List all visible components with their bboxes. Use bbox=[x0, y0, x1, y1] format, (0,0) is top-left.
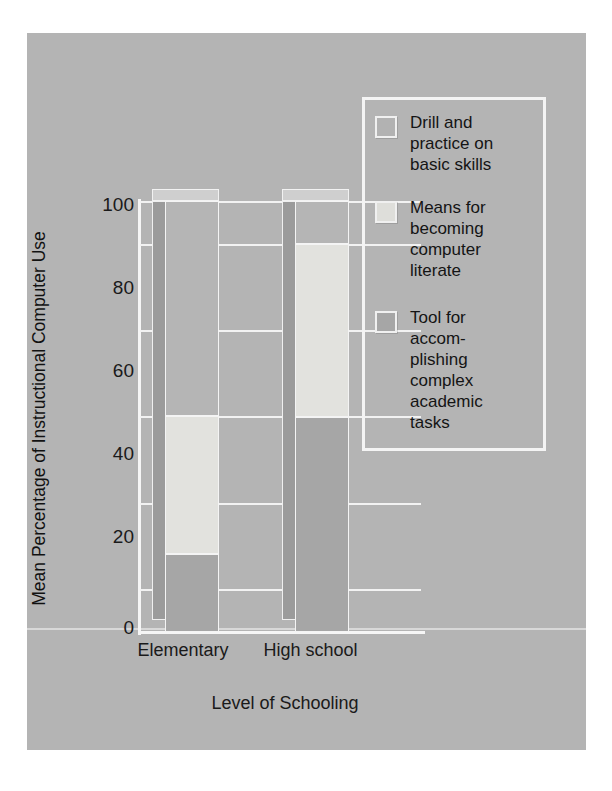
y-axis-title: Mean Percentage of Instructional Compute… bbox=[29, 204, 50, 634]
y-axis-tick-labels: 100 80 60 40 20 0 bbox=[78, 0, 134, 791]
legend-swatch-drill-icon bbox=[375, 116, 397, 138]
bar-high-school[interactable] bbox=[295, 201, 349, 632]
bar-high-school-segment-means[interactable] bbox=[295, 244, 349, 417]
legend-label-drill: Drill and practice on basic skills bbox=[410, 112, 493, 175]
bar-high-school-top-face bbox=[282, 189, 349, 201]
bar-high-school-segment-tool[interactable] bbox=[295, 417, 349, 632]
bar-elementary-segment-drill[interactable] bbox=[165, 201, 219, 416]
y-tick-0: 0 bbox=[88, 618, 134, 637]
y-tick-60: 60 bbox=[88, 361, 134, 380]
bar-elementary-segment-means[interactable] bbox=[165, 416, 219, 554]
y-tick-40: 40 bbox=[88, 444, 134, 463]
legend-swatch-tool-icon bbox=[375, 311, 397, 333]
legend-item-drill[interactable]: Drill and practice on basic skills bbox=[375, 112, 493, 175]
y-tick-20: 20 bbox=[88, 527, 134, 546]
x-label-high-school: High school bbox=[248, 640, 373, 661]
y-tick-80: 80 bbox=[88, 278, 134, 297]
x-label-elementary: Elementary bbox=[128, 640, 238, 661]
legend-swatch-means-icon bbox=[375, 201, 397, 223]
legend-item-tool[interactable]: Tool for accom- plishing complex academi… bbox=[375, 307, 483, 433]
bar-elementary-segment-tool[interactable] bbox=[165, 554, 219, 632]
legend-item-means[interactable]: Means for becoming computer literate bbox=[375, 197, 486, 281]
figure-root: Mean Percentage of Instructional Compute… bbox=[0, 0, 612, 791]
legend: Drill and practice on basic skills Means… bbox=[362, 97, 546, 451]
bar-high-school-segment-drill[interactable] bbox=[295, 201, 349, 244]
bar-elementary-top-face bbox=[152, 189, 219, 201]
bar-elementary[interactable] bbox=[165, 201, 219, 632]
y-tick-100: 100 bbox=[88, 195, 134, 214]
legend-label-tool: Tool for accom- plishing complex academi… bbox=[410, 307, 483, 433]
bar-high-school-side-face bbox=[282, 201, 295, 620]
x-axis-title: Level of Schooling bbox=[140, 693, 430, 714]
legend-label-means: Means for becoming computer literate bbox=[410, 197, 486, 281]
bar-elementary-side-face bbox=[152, 201, 165, 620]
